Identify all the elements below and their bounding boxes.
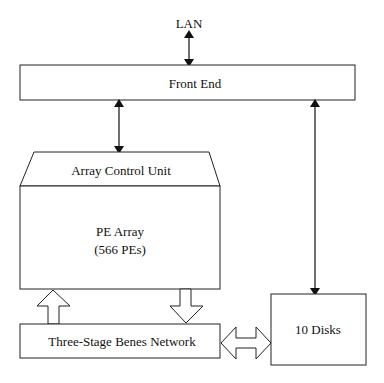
pe-array-box: PE Array (566 PEs) [20, 186, 220, 289]
pe-count-label: (566 PEs) [94, 242, 146, 257]
lan-label: LAN [176, 16, 203, 31]
benes-network-label: Three-Stage Benes Network [48, 334, 196, 349]
front-end-box: Front End [20, 65, 355, 100]
disks-box: 10 Disks [271, 294, 366, 365]
pe-array-label: PE Array [96, 224, 145, 239]
benes-to-pe-hollow-arrow [37, 290, 70, 324]
array-control-unit: Array Control Unit [20, 152, 220, 186]
array-control-unit-label: Array Control Unit [71, 163, 171, 178]
pe-to-benes-hollow-arrow [170, 289, 203, 323]
benes-disks-hollow-double-arrow [221, 327, 271, 359]
disks-label: 10 Disks [295, 322, 341, 337]
architecture-diagram: LAN Front End Array Control Unit PE Arra… [0, 0, 384, 383]
benes-network-box: Three-Stage Benes Network [20, 324, 220, 358]
front-end-label: Front End [169, 76, 222, 91]
